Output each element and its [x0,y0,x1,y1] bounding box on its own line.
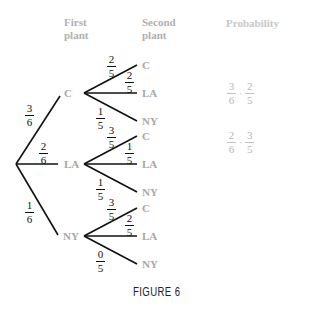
numerator: 3 [109,197,115,208]
branch-prob-la-ny: 15 [96,177,105,202]
node-second-ny-c: C [142,202,150,214]
header-probability: Probability [226,17,279,30]
branch-prob-la-c: 35 [107,125,116,150]
denominator: 5 [127,227,133,238]
branch-prob-ny-c: 35 [107,197,116,222]
branch-prob-c-la: 25 [125,70,134,95]
denominator: 6 [229,144,235,155]
header-second-plant-line1: Second [142,16,176,29]
branch-prob-root-c: 36 [25,103,34,128]
numerator: 1 [127,141,133,152]
denominator: 5 [98,263,104,274]
numerator: 2 [127,213,133,224]
node-second-la-ny: NY [142,186,158,198]
denominator: 6 [27,214,33,225]
numerator: 1 [98,106,104,117]
node-second-c-la: LA [142,87,157,99]
header-second-plant: Second plant [142,16,176,42]
branch-prob-ny-la: 25 [125,213,134,238]
denominator: 5 [98,191,104,202]
header-first-plant: First plant [64,16,88,42]
denominator: 6 [41,155,47,166]
branch-prob-c-c: 25 [107,54,116,79]
denominator: 5 [109,211,115,222]
numerator: 2 [41,141,47,152]
denominator: 5 [127,84,133,95]
numerator: 2 [109,54,115,65]
probability-c-la: 36 · 25 [227,81,254,106]
denominator: 5 [127,155,133,166]
numerator: 3 [27,103,33,114]
numerator: 2 [229,130,235,141]
node-first-ny: NY [63,230,79,242]
node-first-la: LA [64,158,79,170]
probability-factor-b: 25 [245,81,254,106]
probability-factor-a: 26 [227,130,236,155]
denominator: 6 [27,117,33,128]
numerator: 3 [247,130,253,141]
branch-prob-c-ny: 15 [96,106,105,131]
node-second-c-c: C [142,59,150,71]
numerator: 3 [229,81,235,92]
denominator: 5 [98,120,104,131]
node-second-ny-la: LA [142,230,157,242]
denominator: 5 [109,68,115,79]
numerator: 1 [98,177,104,188]
branch-prob-ny-ny: 05 [96,249,105,274]
node-second-ny-ny: NY [142,258,158,270]
branch-prob-root-ny: 16 [25,200,34,225]
denominator: 5 [247,144,253,155]
header-first-plant-line1: First [64,16,88,29]
node-first-c: C [64,87,72,99]
numerator: 3 [109,125,115,136]
numerator: 1 [27,200,33,211]
probability-factor-a: 36 [227,81,236,106]
node-second-la-la: LA [142,158,157,170]
multiply-operator: · [239,137,242,148]
multiply-operator: · [239,88,242,99]
branch-prob-root-la: 26 [39,141,48,166]
numerator: 2 [127,70,133,81]
branch-prob-la-la: 15 [125,141,134,166]
figure-caption: FIGURE 6 [133,285,180,299]
numerator: 0 [98,249,104,260]
probability-factor-b: 35 [245,130,254,155]
probability-la-c: 26 · 35 [227,130,254,155]
denominator: 5 [247,95,253,106]
numerator: 2 [247,81,253,92]
header-first-plant-line2: plant [64,29,88,42]
denominator: 6 [229,95,235,106]
header-second-plant-line2: plant [142,29,176,42]
node-second-c-ny: NY [142,115,158,127]
node-second-la-c: C [142,130,150,142]
denominator: 5 [109,139,115,150]
